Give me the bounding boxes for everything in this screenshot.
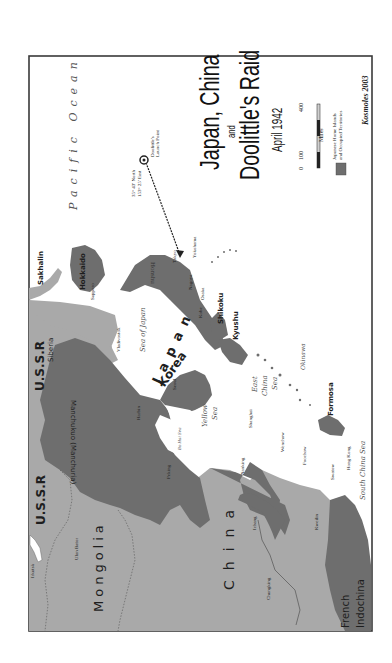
city-seoul: Seoul: [172, 379, 177, 390]
city-chungking: Chungking: [266, 578, 271, 600]
label-ussr-east: U.S.S.R: [34, 341, 46, 391]
label-honshu: Honshu: [149, 262, 156, 284]
city-wenchow: Wenchow: [280, 432, 285, 452]
scale-unit: Miles: [318, 128, 324, 142]
city-swatow: Swatow: [330, 464, 335, 480]
city-peking: Peking: [166, 465, 171, 479]
label-south-china-sea: South China Sea: [360, 441, 367, 500]
label-siberia: Siberia: [48, 338, 55, 362]
city-sapporo: Sapporo: [90, 283, 95, 300]
label-okinawa: Okinawa: [300, 343, 306, 370]
legend-label-1: Japanese Home Islands: [332, 113, 337, 160]
label-east-china-2: China: [262, 375, 269, 396]
map-date: April 1942: [270, 108, 284, 152]
label-french-indochina-1: French: [341, 595, 351, 628]
city-ulan-bator: Ulan Bator: [74, 538, 79, 560]
label-east-china-1: East: [252, 376, 259, 392]
label-bo-hai: Bo Hai Sea: [178, 427, 182, 450]
label-yellow-sea-2: Sea: [212, 407, 219, 420]
city-foochow: Foochow: [302, 446, 307, 465]
launch-coord-2: 153° 25' East: [137, 170, 142, 197]
title-line-1: Japan, China: [196, 54, 224, 170]
legend-label-2: and Occupied Territories: [338, 110, 343, 160]
scale-tick-400: 400: [298, 103, 304, 112]
label-french-indochina-2: Indochina: [356, 579, 366, 628]
launch-coord-1: 35° 43' North: [131, 170, 136, 197]
city-nagoya: Nagoya: [188, 274, 193, 290]
city-shanghai: Shanghai: [248, 409, 253, 428]
label-hokkaido: Hokkaido: [80, 253, 87, 290]
label-east-china-3: Sea: [272, 377, 279, 390]
city-kweilin: Kweilin: [314, 514, 319, 530]
label-shikoku: Shikoku: [218, 293, 225, 324]
label-sakhalin: Sakhalin: [38, 251, 45, 285]
launch-label-2: Launch Point: [155, 130, 160, 157]
title-line-3: Doolittle's Raid: [236, 50, 264, 180]
city-irkutsk: Irkutsk: [30, 564, 35, 578]
label-ussr-west: U.S.S.R: [35, 475, 47, 525]
city-harbin: Harbin: [136, 406, 141, 420]
city-hong-kong: Hong Kong: [346, 447, 351, 470]
city-tokyo: Tokyo: [172, 250, 177, 263]
label-mongolia: Mongolia: [92, 521, 105, 612]
city-kobe: Kobe: [198, 307, 203, 318]
city-vladivostok: Vladivostok: [116, 328, 121, 352]
scale-tick-0: 0: [298, 167, 304, 170]
label-manchukuo: Manchukuo (Manchuria): [69, 400, 76, 484]
label-kyushu: Kyushu: [233, 311, 240, 340]
scale-tick-100: 100: [298, 151, 304, 160]
city-yokohama: Yokohama: [192, 237, 197, 258]
map-credit: Kosmoles 2003: [362, 75, 370, 125]
city-ichang: Ichang: [252, 516, 257, 530]
label-pacific-ocean: Pacific Ocean: [68, 56, 79, 210]
city-osaka: Osaka: [200, 288, 205, 301]
label-sea-of-japan: Sea of Japan: [140, 307, 147, 352]
city-nanking: Nanking: [240, 458, 245, 475]
label-yellow-sea-1: Yellow: [202, 404, 209, 427]
label-formosa: Formosa: [328, 382, 335, 416]
label-china: China: [222, 500, 236, 590]
legend-swatch: [336, 163, 346, 175]
